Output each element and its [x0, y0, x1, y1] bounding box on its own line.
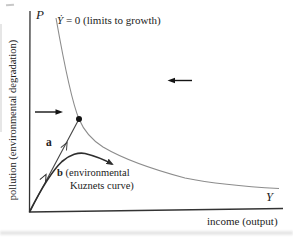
horizontal-axis-symbol: Y	[266, 191, 273, 205]
flow-arrow-left-icon	[168, 78, 193, 84]
path-a-label: a	[46, 136, 52, 149]
kuznets-label-line2: Kuznets curve)	[57, 180, 134, 193]
horizontal-axis-title: income (output)	[207, 215, 278, 227]
vertical-axis-title: pollution (environmental degradation)	[7, 40, 19, 200]
flow-arrow-right-icon	[35, 109, 63, 115]
limits-to-growth-curve	[56, 18, 279, 189]
scan-artifact-bottom	[0, 231, 293, 235]
equilibrium-dot	[76, 116, 82, 122]
phase-diagram-figure: P Ẏ = 0 (limits to growth) pollution (en…	[0, 0, 293, 239]
limits-to-growth-label: Ẏ = 0 (limits to growth)	[57, 14, 161, 26]
vertical-axis-symbol: P	[36, 8, 44, 22]
diagram-canvas	[0, 0, 293, 239]
kuznets-label-line1: b (environmental	[57, 167, 134, 180]
kuznets-curve-label: b (environmental Kuznets curve)	[57, 167, 134, 192]
scan-artifact-left	[0, 24, 2, 132]
limits-label-text: = 0 (limits to growth)	[63, 14, 161, 26]
